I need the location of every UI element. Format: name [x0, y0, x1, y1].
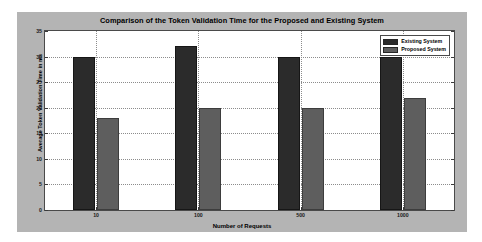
y-tick-label: 20	[36, 105, 42, 111]
y-tick-mark	[451, 133, 454, 134]
y-tick-mark	[451, 57, 454, 58]
y-tick-mark	[45, 210, 48, 211]
legend-item-existing-system: Existing System	[383, 38, 446, 45]
x-axis-label: Number of Requests	[17, 223, 467, 229]
y-tick-mark	[451, 82, 454, 83]
bar-existing-1000	[380, 57, 402, 210]
y-tick-mark	[45, 31, 48, 32]
plot-area: 05101520253035 101005001000 Existing Sys…	[44, 30, 455, 211]
chart-figure: Comparison of the Token Validation Time …	[17, 12, 467, 232]
y-tick-mark	[451, 159, 454, 160]
chart-title: Comparison of the Token Validation Time …	[17, 16, 467, 25]
y-tick-label: 15	[36, 130, 42, 136]
y-tick-label: 5	[39, 181, 42, 187]
y-tick-label: 10	[36, 156, 42, 162]
bar-proposed-500	[302, 108, 324, 210]
legend-item-proposed-system: Proposed System	[383, 46, 446, 53]
bar-proposed-1000	[404, 98, 426, 211]
y-tick-mark	[451, 210, 454, 211]
y-tick-mark	[45, 82, 48, 83]
legend-label-existing: Existing System	[401, 38, 442, 45]
x-tick-label: 1000	[397, 212, 409, 218]
chart-legend: Existing System Proposed System	[380, 35, 450, 56]
bar-proposed-100	[199, 108, 221, 210]
x-tick-label: 10	[93, 212, 99, 218]
y-tick-mark	[451, 108, 454, 109]
legend-label-proposed: Proposed System	[401, 46, 446, 53]
y-tick-mark	[45, 133, 48, 134]
y-tick-label: 30	[36, 54, 42, 60]
y-tick-mark	[45, 57, 48, 58]
y-tick-mark	[45, 108, 48, 109]
bar-existing-100	[175, 46, 197, 210]
y-tick-label: 25	[36, 79, 42, 85]
x-tick-label: 500	[296, 212, 305, 218]
bar-existing-500	[278, 57, 300, 210]
y-tick-mark	[451, 31, 454, 32]
bar-existing-10	[73, 57, 95, 210]
legend-swatch-icon-existing	[383, 39, 398, 45]
y-tick-label: 35	[36, 28, 42, 34]
legend-swatch-icon-proposed	[383, 47, 398, 53]
bar-proposed-10	[97, 118, 119, 210]
y-tick-mark	[45, 184, 48, 185]
y-tick-label: 0	[39, 207, 42, 213]
y-tick-mark	[451, 184, 454, 185]
y-tick-mark	[45, 159, 48, 160]
x-tick-label: 100	[194, 212, 203, 218]
